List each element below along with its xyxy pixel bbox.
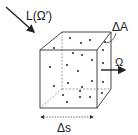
- particle-dot: [102, 81, 104, 83]
- area-label: ΔA: [112, 20, 128, 34]
- particle-dot: [79, 96, 81, 98]
- particle-dot: [101, 92, 103, 94]
- direction-label: Ω: [115, 56, 123, 68]
- volume-element-diagram: L(Ω′) ΔA Ω Δs: [0, 0, 138, 135]
- path-length-label: Δs: [57, 121, 71, 135]
- particle-dot: [81, 54, 83, 56]
- particle-dot: [80, 42, 82, 44]
- particle-dot: [89, 39, 91, 41]
- hidden-edges: [40, 32, 111, 108]
- particle-dot: [102, 49, 104, 51]
- particle-dot: [102, 62, 104, 64]
- particle-dot: [91, 80, 93, 82]
- incoming-radiance-label: L(Ω′): [26, 9, 52, 23]
- particle-dot: [53, 85, 55, 87]
- particle-dot: [91, 59, 93, 61]
- particle-dot: [66, 64, 68, 66]
- particle-dot: [66, 101, 68, 103]
- particle-dot: [72, 52, 74, 54]
- particle-dot: [67, 82, 69, 84]
- particle-dot: [79, 90, 81, 92]
- particle-dot: [104, 41, 106, 43]
- particle-dot: [62, 94, 64, 96]
- particle-dot: [53, 47, 55, 49]
- particle-dot: [77, 70, 79, 72]
- particle-dot: [69, 37, 71, 39]
- particle-dot: [49, 66, 51, 68]
- particle-dot: [81, 86, 83, 88]
- cube-outline: [40, 32, 111, 108]
- particle-dot: [89, 96, 91, 98]
